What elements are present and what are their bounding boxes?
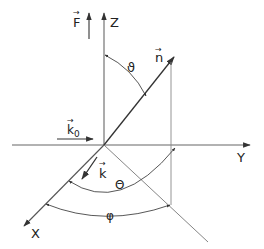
incident-wave-label: k0 — [67, 123, 80, 139]
z-axis: Z — [104, 13, 119, 145]
force-label: F — [73, 15, 80, 30]
incident-wave-accent-icon: → — [67, 116, 74, 125]
phi-angle: φ — [46, 204, 170, 223]
coordinate-diagram: Z F → Y X n → ϑ k0 → k → — [0, 0, 264, 249]
theta-small-angle: ϑ — [105, 55, 146, 96]
y-axis-label: Y — [236, 150, 245, 165]
normal-accent-icon: → — [155, 45, 162, 54]
force-accent-icon: → — [73, 8, 80, 17]
z-axis-label: Z — [110, 15, 119, 30]
scattered-wave-vector: k → — [82, 157, 107, 181]
phi-label: φ — [106, 209, 114, 223]
y-axis: Y — [12, 145, 250, 165]
scattered-wave-label: k — [99, 166, 107, 181]
force-vector: F → — [73, 8, 89, 39]
projection-xy-line — [104, 145, 208, 242]
incident-wave-vector: k0 → — [57, 116, 93, 139]
x-axis-label: X — [31, 226, 40, 241]
x-axis: X — [24, 145, 104, 241]
theta-big-label: Θ — [115, 178, 124, 192]
theta-small-label: ϑ — [127, 60, 135, 75]
theta-big-angle: Θ — [69, 148, 175, 192]
scattered-wave-accent-icon: → — [99, 159, 106, 168]
